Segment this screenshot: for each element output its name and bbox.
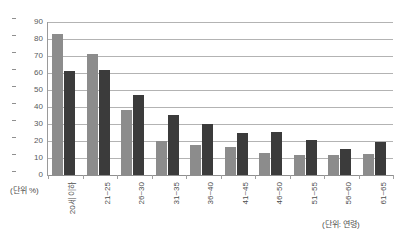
x-tick-label: 26~30	[138, 182, 146, 204]
bar	[306, 140, 317, 175]
bar	[121, 110, 132, 175]
bar-group	[255, 22, 290, 175]
x-tick-mark	[48, 175, 49, 179]
y-tick-label: 20	[17, 137, 43, 145]
bar-group	[324, 22, 359, 175]
bar	[225, 147, 236, 175]
y-tick-label: 30	[17, 120, 43, 128]
y-tick-label: 0	[17, 171, 43, 179]
bar	[190, 145, 201, 175]
bar	[375, 142, 386, 175]
bar-chart: 9080706050403020100 20세 이하21~2526~3031~3…	[0, 0, 405, 247]
x-tick-mark	[221, 175, 222, 179]
bar-group	[48, 22, 83, 175]
x-tick-mark	[152, 175, 153, 179]
x-tick-label: 56~60	[345, 182, 353, 204]
y-tick-label: 40	[17, 103, 43, 111]
y-tick-mark	[12, 120, 16, 121]
bar-group	[186, 22, 221, 175]
y-tick-mark	[12, 86, 16, 87]
x-tick-label: 46~50	[276, 182, 284, 204]
bar-group	[117, 22, 152, 175]
x-tick-label: 36~40	[207, 182, 215, 204]
x-tick-label: 41~45	[242, 182, 250, 204]
plot-area	[48, 22, 393, 175]
bar	[133, 95, 144, 175]
y-tick-mark	[12, 35, 16, 36]
bar	[363, 154, 374, 175]
y-unit-caption: (단위 %)	[10, 184, 39, 195]
x-tick-mark	[117, 175, 118, 179]
bar	[99, 70, 110, 175]
bar	[52, 34, 63, 175]
x-tick-label: 31~35	[173, 182, 181, 204]
x-tick-mark	[186, 175, 187, 179]
y-tick-mark	[12, 103, 16, 104]
y-tick-label: 10	[17, 154, 43, 162]
y-tick-label: 70	[17, 52, 43, 60]
y-tick-mark	[12, 52, 16, 53]
y-tick-label: 60	[17, 69, 43, 77]
x-tick-label: 21~25	[104, 182, 112, 204]
bar	[156, 141, 167, 175]
x-unit-caption: (단위: 연령)	[322, 218, 360, 229]
bar-group	[83, 22, 118, 175]
y-tick-mark	[12, 137, 16, 138]
bar	[340, 149, 351, 175]
bar	[168, 115, 179, 175]
y-tick-mark	[12, 69, 16, 70]
bar	[87, 54, 98, 175]
y-tick-label: 90	[17, 18, 43, 26]
y-tick-label: 80	[17, 35, 43, 43]
x-tick-mark	[83, 175, 84, 179]
x-tick-label: 51~55	[311, 182, 319, 204]
x-tick-mark	[393, 175, 394, 179]
y-tick-mark	[12, 154, 16, 155]
y-tick-label: 50	[17, 86, 43, 94]
x-tick-mark	[255, 175, 256, 179]
bar	[202, 124, 213, 175]
x-tick-label: 61~65	[380, 182, 388, 204]
x-tick-mark	[359, 175, 360, 179]
bar-group	[221, 22, 256, 175]
bar-group	[359, 22, 394, 175]
x-tick-mark	[290, 175, 291, 179]
x-tick-mark	[324, 175, 325, 179]
bar	[294, 155, 305, 175]
bar	[64, 71, 75, 175]
bar-group	[152, 22, 187, 175]
bar	[328, 155, 339, 175]
bar	[237, 133, 248, 176]
x-tick-label: 20세 이하	[69, 182, 77, 214]
bar-group	[290, 22, 325, 175]
bar	[271, 132, 282, 175]
y-tick-mark	[12, 171, 16, 172]
y-tick-mark	[12, 18, 16, 19]
bar	[259, 153, 270, 175]
